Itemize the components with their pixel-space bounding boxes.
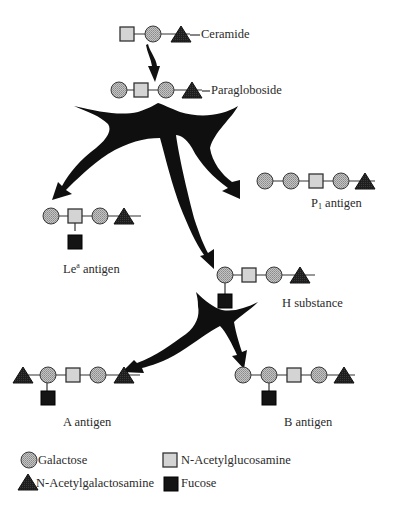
label-lea-antigen: Lea antigen — [63, 262, 120, 276]
glcnac-residue — [120, 27, 134, 41]
legend-galactose-icon — [21, 452, 37, 468]
label-a-antigen: A antigen — [63, 416, 111, 429]
label-p1-antigen: P1 antigen — [311, 197, 362, 211]
molecule-b-antigen — [235, 367, 355, 405]
molecule-a-antigen — [13, 367, 140, 405]
legend-galnac-label: N-Acetylgalactosamine — [36, 477, 154, 490]
label-p1-rest: antigen — [322, 196, 362, 210]
label-h-substance: H substance — [282, 297, 343, 310]
molecule-p1-antigen — [257, 173, 375, 189]
label-b-antigen: B antigen — [284, 416, 332, 429]
branching-arrow-from-h-substance — [122, 292, 258, 373]
label-lea-main: Le — [63, 262, 76, 276]
molecule-paragloboside — [111, 82, 210, 98]
galactose-residue — [145, 26, 161, 42]
legend-glcnac-label: N-Acetylglucosamine — [181, 454, 291, 467]
diagram-canvas — [0, 0, 402, 511]
legend-fucose-label: Fucose — [181, 477, 216, 490]
legend-galnac-icon — [18, 474, 38, 490]
molecule-lea-antigen — [43, 208, 141, 249]
molecule-ceramide-precursor — [120, 26, 200, 42]
legend-fucose-icon — [164, 477, 178, 491]
legend-glcnac-icon — [163, 453, 177, 467]
label-lea-rest: antigen — [80, 262, 120, 276]
legend-galactose-label: Galactose — [38, 454, 87, 467]
arrow-ceramide-to-paragloboside — [146, 44, 160, 82]
pathway-diagram: Ceramide Paragloboside P1 antigen Lea an… — [0, 0, 402, 511]
label-ceramide: Ceramide — [201, 28, 250, 41]
label-paragloboside: Paragloboside — [211, 84, 282, 97]
label-p1-main: P — [311, 196, 318, 210]
